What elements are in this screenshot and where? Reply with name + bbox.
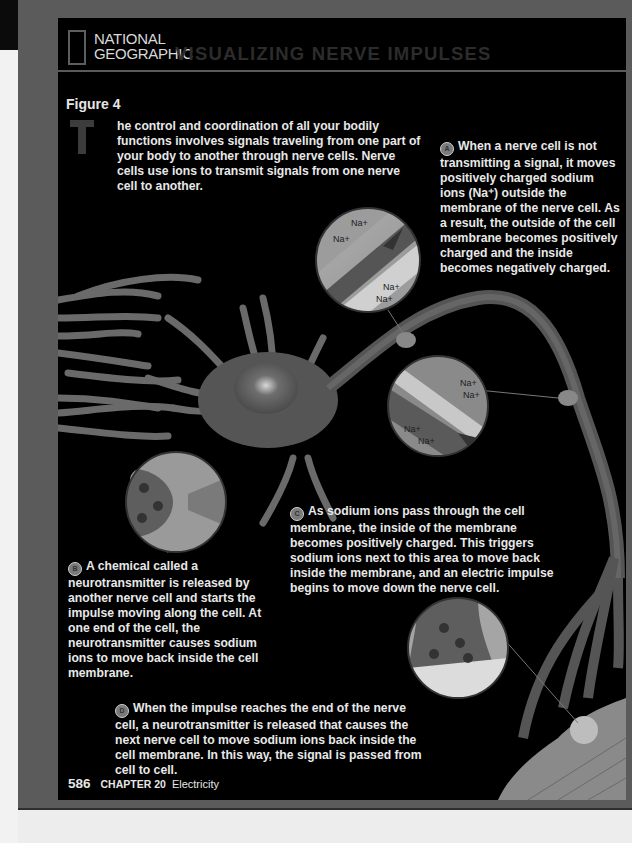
svg-text:Na+: Na+ — [383, 282, 400, 292]
svg-text:Na+: Na+ — [460, 378, 477, 388]
feature-panel: Na+ Na+ Na+ Na+ Na+ Na+ Na+ Na+ — [58, 18, 626, 800]
page-header: NATIONAL GEOGRAPHIC VISUALIZING NERVE IM… — [58, 18, 626, 70]
badge-c-icon: C — [290, 507, 304, 521]
callout-d-text: When the impulse reaches the end of the … — [115, 701, 422, 777]
chapter-subject: Electricity — [172, 778, 219, 790]
callout-b: BA chemical called a neurotransmitter is… — [68, 559, 278, 681]
callout-c-text: As sodium ions pass through the cell mem… — [290, 504, 553, 595]
intro-paragraph: he control and coordination of all your … — [117, 119, 422, 194]
header-rule — [58, 70, 626, 72]
page-number: 586 — [68, 776, 91, 791]
svg-text:Na+: Na+ — [333, 234, 350, 244]
svg-text:Na+: Na+ — [463, 390, 480, 400]
magnifier-c — [388, 353, 498, 478]
callout-b-text: A chemical called a neurotransmitter is … — [68, 559, 261, 680]
badge-d-icon: D — [115, 704, 129, 718]
callout-d: DWhen the impulse reaches the end of the… — [115, 701, 425, 778]
page-frame: Na+ Na+ Na+ Na+ Na+ Na+ Na+ Na+ — [18, 0, 632, 810]
adjacent-page-edge — [0, 0, 18, 50]
adjacent-page-margin — [0, 50, 18, 843]
svg-text:Na+: Na+ — [404, 424, 421, 434]
page-footer: 586CHAPTER 20Electricity — [68, 776, 219, 791]
marker-a — [396, 332, 416, 348]
badge-b-icon: B — [68, 562, 82, 576]
callout-a: AWhen a nerve cell is not transmitting a… — [440, 139, 620, 276]
nucleus — [234, 362, 298, 414]
nat-geo-logo-frame-icon — [68, 30, 86, 65]
callout-a-text: When a nerve cell is not transmitting a … — [440, 139, 620, 275]
marker-c — [558, 390, 578, 406]
drop-cap — [70, 120, 94, 154]
svg-text:Na+: Na+ — [376, 294, 393, 304]
page-title: VISUALIZING NERVE IMPULSES — [175, 45, 492, 63]
callout-c: CAs sodium ions pass through the cell me… — [290, 504, 570, 596]
next-cell — [498, 698, 626, 800]
badge-a-icon: A — [440, 142, 454, 156]
chapter-label: CHAPTER 20 — [101, 778, 166, 790]
na-label: Na+ — [351, 218, 368, 228]
figure-label: Figure 4 — [66, 96, 120, 112]
svg-text:Na+: Na+ — [418, 436, 435, 446]
synapse-d-marker — [570, 716, 598, 744]
brand-line-1: NATIONAL — [94, 31, 166, 46]
